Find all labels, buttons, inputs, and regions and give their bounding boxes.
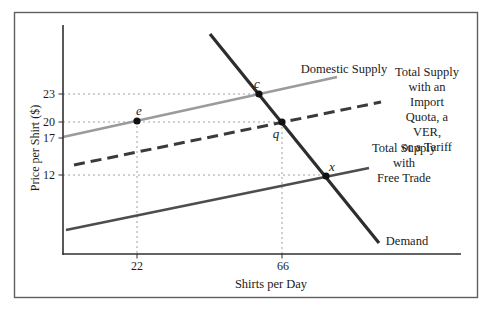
point-c [255, 90, 262, 97]
domestic-supply-line [63, 77, 337, 137]
y-axis-title: Price per Shirt ($) [28, 105, 43, 191]
supply-demand-figure: Price per Shirt ($) 23 20 17 12 22 66 Sh… [0, 0, 492, 311]
curve-label-free-trade-supply: Total Supply with Free Trade [360, 141, 448, 186]
y-tick-label-23: 23 [43, 87, 55, 102]
point-label-x: x [329, 159, 335, 174]
point-label-e: e [136, 103, 142, 118]
curve-label-demand: Demand [386, 234, 428, 249]
x-axis-title: Shirts per Day [235, 277, 307, 292]
y-tick-label-17: 17 [43, 131, 55, 146]
point-label-c: c [254, 76, 260, 91]
y-tick-label-12: 12 [43, 168, 55, 183]
quota-supply-line [74, 102, 381, 165]
curve-label-domestic-supply: Domestic Supply [301, 62, 387, 77]
point-label-q: q [273, 126, 280, 141]
x-tick-label-22: 22 [131, 259, 143, 274]
point-e [133, 117, 140, 124]
x-tick-label-66: 66 [277, 259, 289, 274]
y-tick-label-20: 20 [43, 115, 55, 130]
